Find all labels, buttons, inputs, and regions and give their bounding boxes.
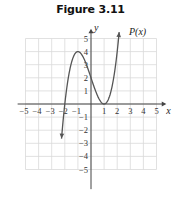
y-tick-label: −1 [79,112,88,122]
y-axis-label: y [93,22,99,33]
y-tick-label: 2 [84,73,88,83]
x-tick-label: 1 [102,106,106,116]
y-tick-label: −5 [79,165,88,175]
x-tick-label: 2 [115,106,119,116]
x-axis-label: x [165,105,171,116]
y-tick-label: 5 [84,34,88,44]
y-tick-label: −2 [79,125,88,135]
x-tick-label: 4 [141,106,146,116]
x-tick-label: −4 [33,106,43,116]
x-tick-label: −5 [19,106,28,116]
y-tick-label: −4 [79,151,89,161]
x-tick-label: 3 [128,106,132,116]
x-tick-label: −3 [46,106,55,116]
curve-p-of-x [62,32,120,138]
plot-area: −5−4−3−2−112345−5−4−3−2−112345xyP(x) [0,0,181,202]
y-tick-label: −3 [79,138,88,148]
curve-arrow-icon [60,133,65,138]
y-tick-label: 1 [84,86,88,96]
x-tick-label: 5 [154,106,158,116]
function-label: P(x) [128,26,147,38]
y-axis-arrow-icon [89,29,94,34]
